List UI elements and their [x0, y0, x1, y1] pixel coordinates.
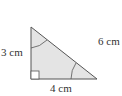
left-side-label: 3 cm	[1, 46, 23, 58]
right-angle-marker	[31, 71, 39, 79]
bottom-side-label: 4 cm	[50, 82, 72, 94]
diagram-canvas: 3 cm 4 cm 6 cm	[0, 0, 122, 96]
hypotenuse-label: 6 cm	[98, 35, 120, 47]
triangle-shape	[31, 27, 97, 79]
